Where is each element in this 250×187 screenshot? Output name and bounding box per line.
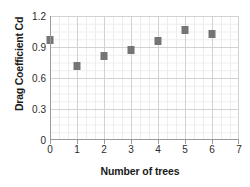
plot-area <box>50 16 239 140</box>
data-point <box>182 26 189 34</box>
x-tick-label: 1 <box>67 144 87 155</box>
x-tick-label: 5 <box>175 144 195 155</box>
x-tick-label: 0 <box>40 144 60 155</box>
x-tick-label: 2 <box>94 144 114 155</box>
data-point <box>128 46 135 54</box>
y-axis-line <box>50 16 51 140</box>
gridline-vertical <box>104 16 105 140</box>
gridline-vertical <box>77 16 78 140</box>
data-point <box>74 62 81 70</box>
x-tick-label: 6 <box>202 144 222 155</box>
gridline-vertical <box>131 16 132 140</box>
x-tick-label: 4 <box>148 144 168 155</box>
y-tick-label: 0.3 <box>22 104 46 115</box>
data-point <box>209 30 216 38</box>
y-tick-label: 0.9 <box>22 42 46 53</box>
gridline-vertical <box>158 16 159 140</box>
y-tick-label: 0.6 <box>22 73 46 84</box>
x-axis-title: Number of trees <box>40 165 240 177</box>
x-tick-label: 7 <box>229 144 249 155</box>
data-point <box>101 52 108 60</box>
data-point <box>155 37 162 45</box>
gridline-vertical <box>238 16 239 140</box>
chart-container: Drag Coefficient Cd 1.20.90.60.30 012345… <box>0 0 250 187</box>
x-tick-label: 3 <box>121 144 141 155</box>
y-tick-label: 1.2 <box>22 11 46 22</box>
x-axis-tick-labels: 01234567 <box>50 144 239 158</box>
y-axis-tick-labels: 1.20.90.60.30 <box>22 16 46 140</box>
gridline-vertical <box>185 16 186 140</box>
